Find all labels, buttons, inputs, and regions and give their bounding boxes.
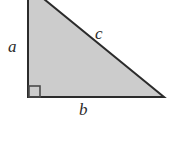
figure-container: a c b <box>0 0 182 150</box>
side-label-c: c <box>95 25 103 42</box>
right-triangle-diagram <box>0 0 182 150</box>
side-label-a: a <box>8 38 17 55</box>
side-label-b: b <box>79 101 88 118</box>
triangle-shape <box>28 0 164 97</box>
